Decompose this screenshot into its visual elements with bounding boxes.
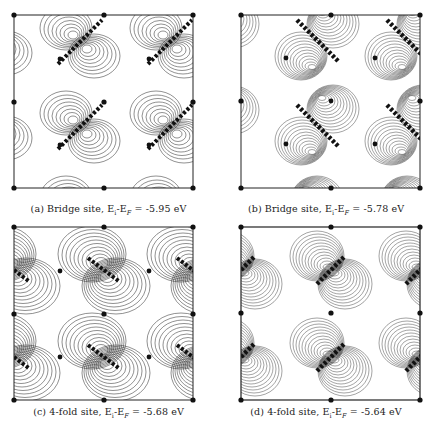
caption-site: Bridge site, bbox=[47, 203, 104, 214]
caption-energy: E bbox=[105, 406, 112, 417]
panel-c: (c) 4-fold site, Ei-EF = -5.68 eV bbox=[0, 220, 217, 430]
caption-site: Bridge site, bbox=[265, 203, 322, 214]
caption-eq: = bbox=[131, 203, 145, 214]
atom-markers bbox=[11, 12, 195, 190]
contour-plot-b bbox=[217, 0, 435, 200]
caption-eq: = bbox=[347, 406, 361, 417]
caption-value: -5.95 eV bbox=[146, 203, 187, 214]
caption-site: 4-fold site, bbox=[49, 406, 101, 417]
caption-label: (c) bbox=[33, 406, 46, 417]
panel-a: (a) Bridge site, Ei-EF = -5.95 eV bbox=[0, 0, 217, 200]
caption-b: (b) Bridge site, Ei-EF = -5.78 eV bbox=[217, 203, 435, 217]
panel-d: (d) 4-fold site, Ei-EF = -5.64 eV bbox=[217, 220, 435, 430]
caption-value: -5.68 eV bbox=[143, 406, 184, 417]
contour-plot-a bbox=[0, 0, 217, 200]
caption-value: -5.78 eV bbox=[363, 203, 404, 214]
caption-d: (d) 4-fold site, Ei-EF = -5.64 eV bbox=[217, 406, 435, 420]
caption-eq: = bbox=[129, 406, 143, 417]
caption-a: (a) Bridge site, Ei-EF = -5.95 eV bbox=[0, 203, 217, 217]
panel-b: (b) Bridge site, Ei-EF = -5.78 eV bbox=[217, 0, 435, 200]
caption-site: 4-fold site, bbox=[267, 406, 319, 417]
contour-plot-c bbox=[0, 220, 217, 410]
caption-value: -5.64 eV bbox=[361, 406, 402, 417]
caption-fermi: -E bbox=[116, 203, 126, 214]
contour-plot-d bbox=[217, 220, 435, 410]
caption-label: (b) bbox=[248, 203, 262, 214]
caption-fermi: -E bbox=[332, 406, 342, 417]
caption-fermi: -E bbox=[114, 406, 124, 417]
caption-c: (c) 4-fold site, Ei-EF = -5.68 eV bbox=[0, 406, 217, 420]
caption-energy: E bbox=[323, 406, 330, 417]
caption-label: (d) bbox=[250, 406, 264, 417]
caption-label: (a) bbox=[31, 203, 44, 214]
caption-eq: = bbox=[349, 203, 363, 214]
caption-energy: E bbox=[325, 203, 332, 214]
caption-fermi: -E bbox=[334, 203, 344, 214]
